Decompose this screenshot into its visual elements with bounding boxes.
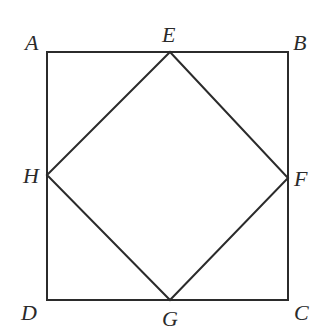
inner-quadrilateral-efgh: [47, 52, 288, 300]
geometry-diagram: A B C D E F G H: [0, 0, 330, 336]
label-g: G: [162, 306, 178, 331]
label-f: F: [293, 166, 308, 191]
label-a: A: [23, 30, 39, 55]
label-d: D: [20, 300, 37, 325]
outer-square-abcd: [47, 52, 288, 300]
label-h: H: [22, 163, 40, 188]
label-e: E: [161, 22, 176, 47]
label-c: C: [294, 300, 309, 325]
label-b: B: [293, 30, 306, 55]
